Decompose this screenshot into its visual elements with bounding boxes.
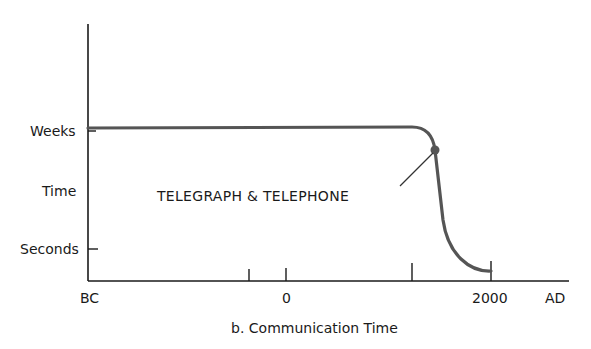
annotation-leader bbox=[400, 153, 433, 186]
y-label-weeks: Weeks bbox=[30, 123, 76, 139]
x-label-zero: 0 bbox=[282, 290, 291, 306]
y-label-time: Time bbox=[42, 183, 76, 199]
y-label-seconds: Seconds bbox=[20, 241, 79, 257]
x-label-bc: BC bbox=[80, 290, 99, 306]
x-label-2000: 2000 bbox=[472, 290, 508, 306]
annotation-telegraph: TELEGRAPH & TELEPHONE bbox=[157, 188, 349, 204]
x-label-ad: AD bbox=[545, 290, 565, 306]
chart-caption: b. Communication Time bbox=[231, 320, 398, 336]
telegraph-marker bbox=[431, 146, 440, 155]
